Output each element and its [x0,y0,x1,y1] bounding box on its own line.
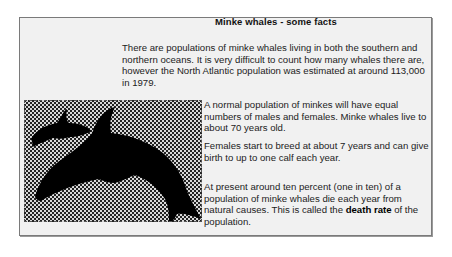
death-rate-paragraph: At present around ten percent (one in te… [204,181,429,227]
intro-paragraph: There are populations of minke whales li… [122,42,432,88]
whale-figure [24,100,202,222]
fact-box-title: Minke whales - some facts [215,16,337,27]
breeding-paragraph: Females start to breed at about 7 years … [204,140,429,163]
whale-silhouette-icon [25,101,202,222]
sex-ratio-paragraph: A normal population of minkes will have … [204,99,429,134]
death-rate-term: death rate [346,204,392,215]
